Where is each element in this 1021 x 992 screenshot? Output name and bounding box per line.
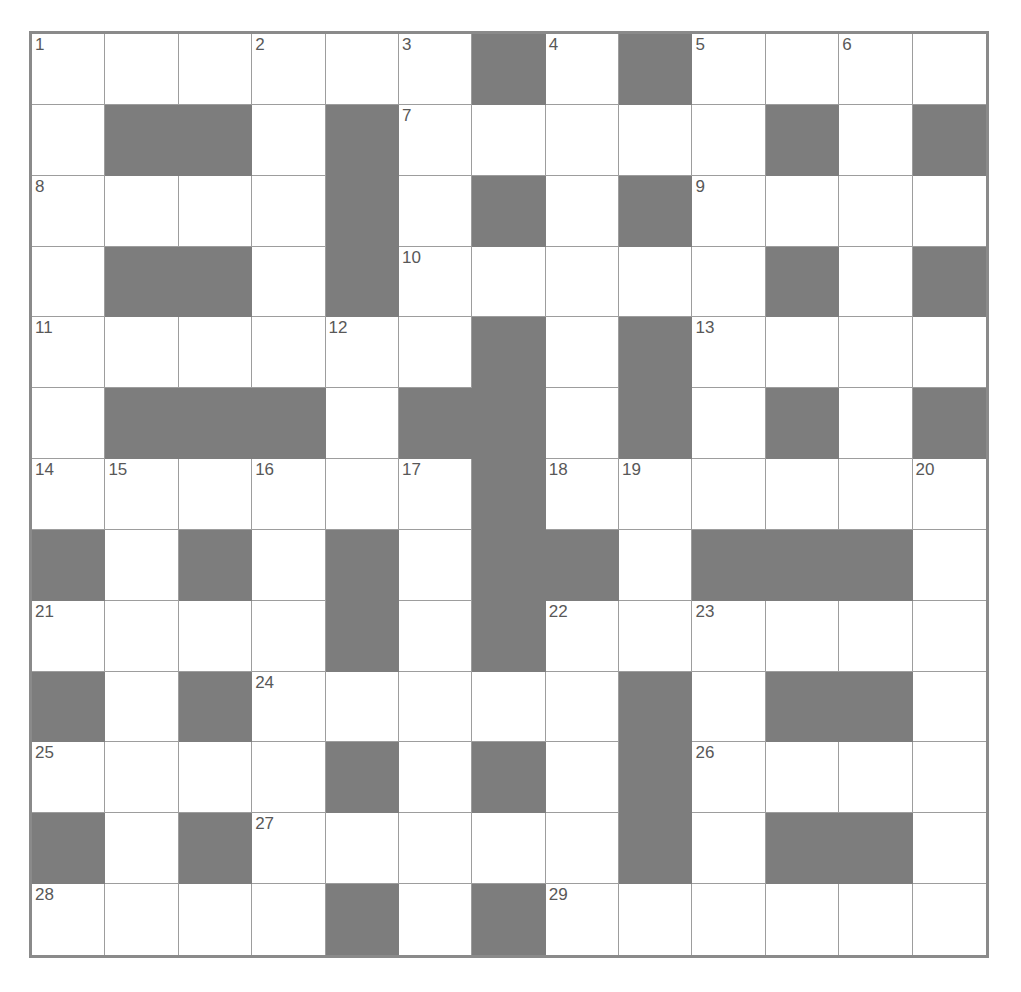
crossword-cell[interactable]: 4: [546, 34, 619, 105]
crossword-cell[interactable]: [913, 672, 986, 743]
crossword-cell[interactable]: 23: [692, 601, 765, 672]
crossword-cell[interactable]: [546, 105, 619, 176]
crossword-cell[interactable]: [692, 105, 765, 176]
crossword-cell[interactable]: [252, 105, 325, 176]
crossword-cell[interactable]: 15: [105, 459, 178, 530]
crossword-cell[interactable]: [252, 884, 325, 955]
crossword-cell[interactable]: [913, 176, 986, 247]
crossword-cell[interactable]: [32, 388, 105, 459]
crossword-cell[interactable]: [326, 672, 399, 743]
crossword-cell[interactable]: 9: [692, 176, 765, 247]
crossword-cell[interactable]: [839, 884, 912, 955]
crossword-cell[interactable]: [546, 672, 619, 743]
crossword-cell[interactable]: [399, 530, 472, 601]
crossword-cell[interactable]: [32, 247, 105, 318]
crossword-cell[interactable]: [252, 742, 325, 813]
crossword-cell[interactable]: 19: [619, 459, 692, 530]
crossword-cell[interactable]: [326, 813, 399, 884]
crossword-cell[interactable]: [692, 672, 765, 743]
crossword-cell[interactable]: 18: [546, 459, 619, 530]
crossword-cell[interactable]: [179, 884, 252, 955]
crossword-cell[interactable]: [619, 105, 692, 176]
crossword-cell[interactable]: [105, 176, 178, 247]
crossword-cell[interactable]: [399, 884, 472, 955]
crossword-cell[interactable]: [766, 884, 839, 955]
crossword-cell[interactable]: [913, 742, 986, 813]
crossword-cell[interactable]: [692, 884, 765, 955]
crossword-cell[interactable]: [839, 742, 912, 813]
crossword-cell[interactable]: 8: [32, 176, 105, 247]
crossword-cell[interactable]: [326, 459, 399, 530]
crossword-cell[interactable]: 27: [252, 813, 325, 884]
crossword-cell[interactable]: [105, 813, 178, 884]
crossword-cell[interactable]: 21: [32, 601, 105, 672]
crossword-cell[interactable]: 16: [252, 459, 325, 530]
crossword-cell[interactable]: [252, 601, 325, 672]
crossword-cell[interactable]: [105, 34, 178, 105]
crossword-cell[interactable]: [105, 672, 178, 743]
crossword-cell[interactable]: 29: [546, 884, 619, 955]
crossword-cell[interactable]: [472, 247, 545, 318]
crossword-cell[interactable]: [692, 459, 765, 530]
crossword-cell[interactable]: [913, 317, 986, 388]
crossword-cell[interactable]: [913, 813, 986, 884]
crossword-cell[interactable]: 13: [692, 317, 765, 388]
crossword-cell[interactable]: 2: [252, 34, 325, 105]
crossword-cell[interactable]: [619, 884, 692, 955]
crossword-cell[interactable]: [399, 176, 472, 247]
crossword-cell[interactable]: [105, 317, 178, 388]
crossword-cell[interactable]: 26: [692, 742, 765, 813]
crossword-cell[interactable]: 6: [839, 34, 912, 105]
crossword-cell[interactable]: [32, 105, 105, 176]
crossword-cell[interactable]: [252, 176, 325, 247]
crossword-cell[interactable]: [839, 317, 912, 388]
crossword-cell[interactable]: 12: [326, 317, 399, 388]
crossword-cell[interactable]: [619, 601, 692, 672]
crossword-cell[interactable]: 14: [32, 459, 105, 530]
crossword-cell[interactable]: 3: [399, 34, 472, 105]
crossword-cell[interactable]: [399, 601, 472, 672]
crossword-cell[interactable]: [105, 530, 178, 601]
crossword-cell[interactable]: [546, 388, 619, 459]
crossword-cell[interactable]: [546, 813, 619, 884]
crossword-cell[interactable]: [472, 105, 545, 176]
crossword-cell[interactable]: [105, 742, 178, 813]
crossword-cell[interactable]: 24: [252, 672, 325, 743]
crossword-cell[interactable]: [766, 601, 839, 672]
crossword-cell[interactable]: 11: [32, 317, 105, 388]
crossword-cell[interactable]: [105, 884, 178, 955]
crossword-cell[interactable]: [766, 742, 839, 813]
crossword-cell[interactable]: [546, 247, 619, 318]
crossword-cell[interactable]: [252, 247, 325, 318]
crossword-cell[interactable]: 28: [32, 884, 105, 955]
crossword-cell[interactable]: [839, 459, 912, 530]
crossword-cell[interactable]: [252, 317, 325, 388]
crossword-cell[interactable]: 17: [399, 459, 472, 530]
crossword-cell[interactable]: [839, 388, 912, 459]
crossword-cell[interactable]: [179, 459, 252, 530]
crossword-cell[interactable]: [546, 317, 619, 388]
crossword-cell[interactable]: [913, 530, 986, 601]
crossword-cell[interactable]: [399, 813, 472, 884]
crossword-cell[interactable]: 7: [399, 105, 472, 176]
crossword-cell[interactable]: [839, 176, 912, 247]
crossword-cell[interactable]: 20: [913, 459, 986, 530]
crossword-cell[interactable]: [472, 672, 545, 743]
crossword-cell[interactable]: [766, 317, 839, 388]
crossword-cell[interactable]: 5: [692, 34, 765, 105]
crossword-cell[interactable]: [179, 317, 252, 388]
crossword-cell[interactable]: [839, 601, 912, 672]
crossword-cell[interactable]: [105, 601, 178, 672]
crossword-cell[interactable]: [472, 813, 545, 884]
crossword-cell[interactable]: [179, 601, 252, 672]
crossword-cell[interactable]: [179, 742, 252, 813]
crossword-cell[interactable]: [326, 388, 399, 459]
crossword-cell[interactable]: [692, 813, 765, 884]
crossword-cell[interactable]: [913, 34, 986, 105]
crossword-cell[interactable]: [326, 34, 399, 105]
crossword-cell[interactable]: [619, 247, 692, 318]
crossword-cell[interactable]: [399, 742, 472, 813]
crossword-cell[interactable]: 25: [32, 742, 105, 813]
crossword-cell[interactable]: [692, 388, 765, 459]
crossword-cell[interactable]: 10: [399, 247, 472, 318]
